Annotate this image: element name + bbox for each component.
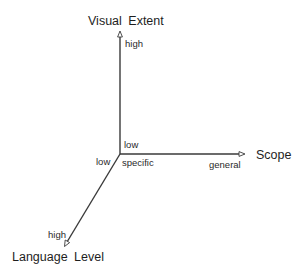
horizontal-axis-high-label: general (209, 160, 241, 170)
diagonal-axis-high-label: high (48, 230, 66, 240)
diagonal-axis-title: Language Level (12, 251, 104, 264)
vertical-axis-title: Visual Extent (88, 15, 164, 28)
vertical-axis-low-label: low (124, 140, 138, 150)
diagram-canvas: Visual Extent Scope Language Level high … (0, 0, 304, 277)
horizontal-axis-low-label: specific (122, 158, 154, 168)
diagonal-axis-arrowhead-icon (65, 240, 70, 247)
diagonal-axis-low-label: low (96, 157, 110, 167)
diagonal-axis-line (67, 154, 120, 242)
vertical-axis-arrowhead-icon (118, 31, 123, 37)
horizontal-axis-title: Scope (256, 149, 291, 162)
axes-graphic (0, 0, 304, 277)
horizontal-axis-arrowhead-icon (239, 152, 245, 157)
vertical-axis-high-label: high (125, 39, 143, 49)
